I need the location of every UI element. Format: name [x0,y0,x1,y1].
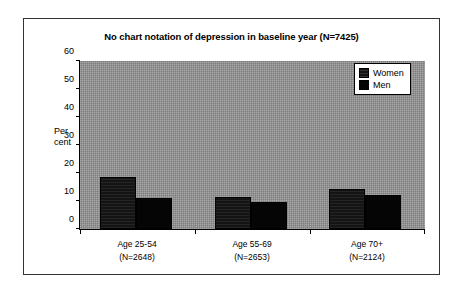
y-tick-label-20: 20 [64,158,74,168]
legend-swatch-men-icon [359,80,369,90]
x-category-label-line1: Age 25-54 [117,238,156,251]
x-tick-mark-3 [424,229,425,234]
chart-title: No chart notation of depression in basel… [24,31,439,42]
x-category-label-line2: (N=2648) [117,251,156,264]
chart-figure-frame: No chart notation of depression in basel… [23,18,440,275]
x-category-label-line1: Age 70+ [349,238,385,251]
y-tick-label-0: 0 [69,214,74,224]
legend-entry-women: Women [359,67,404,79]
bar-men-age-55-69 [251,202,287,229]
bar-men-age-25-54 [136,198,172,229]
legend-label-women: Women [373,68,404,78]
x-category-label-line2: (N=2653) [232,251,271,264]
y-tick-label-40: 40 [64,102,74,112]
bar-men-age-70-plus [365,195,401,229]
y-tick-mark-60 [76,60,80,61]
y-tick-mark-10 [76,200,80,201]
y-tick-mark-50 [76,88,80,89]
y-tick-mark-20 [76,172,80,173]
y-tick-label-10: 10 [64,186,74,196]
legend-label-men: Men [373,80,391,90]
y-tick-label-50: 50 [64,74,74,84]
y-tick-label-60: 60 [64,46,74,56]
x-tick-mark-2 [310,229,311,234]
y-tick-mark-40 [76,116,80,117]
x-category-label-age-25-54: Age 25-54 (N=2648) [117,238,156,264]
x-tick-mark-0 [80,229,81,234]
x-category-label-age-55-69: Age 55-69 (N=2653) [232,238,271,264]
legend-swatch-women-icon [359,68,369,78]
bar-women-age-55-69 [215,197,251,229]
plot-area: 0 10 20 30 40 50 60 Age 25-54 (N=2648) [79,61,425,230]
bar-women-age-70-plus [329,189,365,229]
x-category-label-line1: Age 55-69 [232,238,271,251]
x-tick-mark-1 [195,229,196,234]
y-tick-label-30: 30 [64,130,74,140]
y-tick-mark-30 [76,144,80,145]
chart-legend: Women Men [354,63,411,95]
x-category-label-line2: (N=2124) [349,251,385,264]
bar-women-age-25-54 [100,177,136,229]
legend-entry-men: Men [359,79,404,91]
x-category-label-age-70-plus: Age 70+ (N=2124) [349,238,385,264]
